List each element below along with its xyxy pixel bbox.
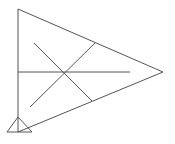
diagram-canvas [0,0,175,144]
